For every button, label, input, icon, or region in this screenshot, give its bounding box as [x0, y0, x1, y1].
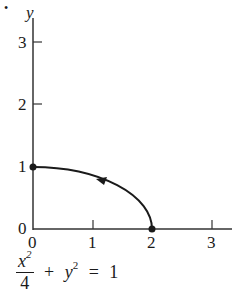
y-tick-label-1: 1 [18, 158, 27, 175]
y-tick-label-0: 0 [18, 220, 27, 237]
point-2-0 [149, 226, 156, 233]
point-0-1 [30, 164, 37, 171]
x-tick-label-2: 2 [147, 234, 156, 251]
x-tick-label-3: 3 [207, 234, 216, 251]
ellipse-curve [33, 167, 152, 229]
ellipse-equation: x2 4 + y2 = 1 [16, 252, 118, 296]
y-tick-label-2: 2 [18, 96, 27, 113]
direction-arrow-icon [96, 177, 107, 185]
x-tick-label-1: 1 [88, 234, 97, 251]
y-tick-label-3: 3 [18, 34, 27, 51]
equation-fraction: x2 4 [16, 250, 34, 294]
